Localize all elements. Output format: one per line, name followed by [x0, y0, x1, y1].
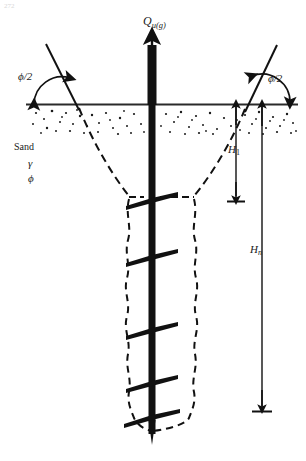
- failure-surface-left-cylinder: [126, 199, 152, 431]
- screw-anchor-diagram: [0, 0, 306, 461]
- angle-label-left: ϕ/2: [18, 70, 32, 82]
- uplift-load-label: Qu(g): [143, 14, 166, 30]
- h1-subscript: 1: [236, 148, 240, 157]
- hn-dimension: [252, 104, 272, 412]
- uplift-load-subscript: u(g): [152, 20, 166, 30]
- hn-base: H: [250, 243, 258, 255]
- uplift-load-base: Q: [143, 14, 152, 28]
- hn-subscript: n: [258, 248, 262, 257]
- friction-angle-label: ϕ: [28, 172, 34, 184]
- angle-label-right: ϕ/2: [268, 72, 282, 84]
- hn-label: Hn: [250, 243, 262, 257]
- failure-surface-right-cylinder: [152, 199, 197, 431]
- h1-base: H: [228, 143, 236, 155]
- failure-surface-left-upper: [79, 108, 129, 196]
- h1-label: H1: [228, 143, 240, 157]
- soil-name-label: Sand: [14, 141, 34, 152]
- sand-stipple: [32, 109, 297, 135]
- anchor-shaft-upper: [148, 45, 157, 105]
- unit-weight-label: γ: [28, 157, 32, 169]
